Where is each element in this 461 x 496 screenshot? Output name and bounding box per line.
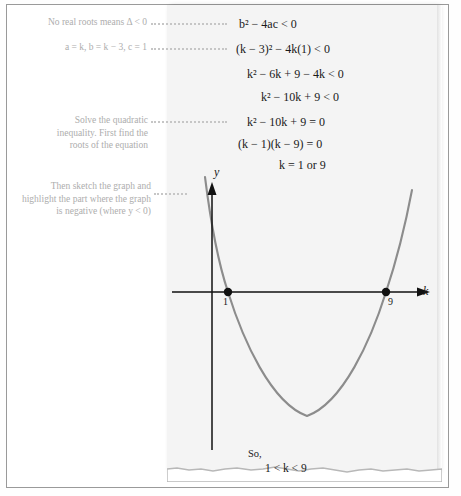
- y-axis-label: y: [214, 165, 219, 180]
- root-point-9: [382, 288, 390, 296]
- equation-simplified: k² − 10k + 9 < 0: [261, 90, 339, 105]
- parabola-curve: [205, 177, 412, 416]
- equation-discriminant: b² − 4ac < 0: [239, 17, 297, 32]
- equation-set-to-zero: k² − 10k + 9 = 0: [247, 115, 325, 130]
- graph-sketch: y k 1 9: [167, 165, 442, 465]
- equation-substituted: (k − 3)² − 4k(1) < 0: [236, 42, 330, 57]
- graph-svg: [167, 165, 442, 465]
- y-axis-arrowhead: [208, 182, 217, 195]
- leader-line-1: [151, 23, 227, 27]
- root-label-1: 1: [223, 296, 228, 307]
- annotation-no-real-roots: No real roots means Δ < 0: [27, 16, 147, 29]
- scanned-page: No real roots means Δ < 0 a = k, b = k −…: [0, 0, 461, 496]
- annotation-text: Solve the quadratic inequality. First fi…: [57, 115, 148, 150]
- annotation-solve-quadratic: Solve the quadratic inequality. First fi…: [53, 114, 148, 152]
- annotation-coefficients: a = k, b = k − 3, c = 1: [37, 41, 147, 54]
- annotation-text: No real roots means Δ < 0: [48, 17, 147, 27]
- annotation-sketch-graph: Then sketch the graph and highlight the …: [21, 180, 151, 218]
- leader-line-2: [151, 48, 227, 52]
- figure-frame: No real roots means Δ < 0 a = k, b = k −…: [6, 4, 449, 488]
- leader-line-3: [151, 121, 227, 125]
- equation-factored: (k − 1)(k − 9) = 0: [238, 137, 322, 152]
- conclusion-answer: 1 < k < 9: [265, 462, 307, 474]
- x-axis-label: k: [423, 284, 428, 299]
- equation-expanded: k² − 6k + 9 − 4k < 0: [247, 67, 344, 82]
- root-label-9: 9: [388, 296, 393, 307]
- annotation-text: a = k, b = k − 3, c = 1: [65, 42, 147, 52]
- annotation-text: Then sketch the graph and highlight the …: [22, 181, 151, 216]
- root-point-1: [224, 288, 232, 296]
- conclusion-lead: So,: [248, 448, 262, 459]
